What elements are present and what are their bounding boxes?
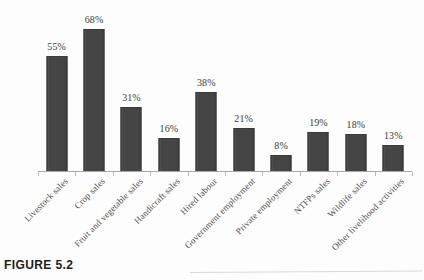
bar-slot: 19% (300, 0, 337, 172)
bar-slot: 38% (188, 0, 225, 172)
bar-value-label: 21% (234, 113, 253, 124)
x-axis-category-label: Other livelihood activities (330, 176, 406, 252)
bar[interactable] (383, 145, 404, 172)
figure-container: 55%68%31%16%38%21%8%19%18%13% Livestock … (0, 0, 424, 280)
bar-value-label: 13% (384, 130, 403, 141)
x-axis-category-label: NTFPs sales (291, 176, 331, 216)
bar[interactable] (308, 132, 329, 172)
bar-value-label: 8% (274, 140, 288, 151)
bar[interactable] (196, 92, 217, 172)
x-axis-category-label: Government employment (182, 176, 257, 251)
bar-value-label: 55% (47, 41, 66, 52)
bar-series: 55%68%31%16%38%21%8%19%18%13% (38, 0, 412, 172)
bar-slot: 13% (375, 0, 412, 172)
bar-value-label: 18% (347, 119, 366, 130)
figure-caption: FIGURE 5.2 (4, 258, 73, 272)
x-axis-category-labels: Livestock salesCrop salesFruit and veget… (38, 176, 412, 272)
bar-slot: 16% (150, 0, 187, 172)
bar-slot: 8% (262, 0, 299, 172)
bar[interactable] (345, 134, 366, 172)
bar[interactable] (271, 155, 292, 172)
bar-slot: 31% (113, 0, 150, 172)
bar[interactable] (158, 138, 179, 172)
x-axis-category-label: Hired labour (179, 176, 220, 217)
x-axis-tick (412, 172, 413, 176)
bar-slot: 55% (38, 0, 75, 172)
bar-value-label: 19% (309, 117, 328, 128)
bar[interactable] (46, 56, 67, 172)
bar[interactable] (233, 128, 254, 172)
x-axis-category-label: Fruit and vegetable sales (72, 176, 145, 249)
bar-value-label: 68% (85, 14, 104, 25)
bar-slot: 18% (337, 0, 374, 172)
bar[interactable] (84, 29, 105, 172)
page-rule-artifact (190, 271, 422, 273)
bar[interactable] (121, 107, 142, 172)
bar-value-label: 38% (197, 77, 216, 88)
bar-value-label: 31% (122, 92, 141, 103)
x-axis-category-label: Crop sales (72, 176, 107, 211)
bar-value-label: 16% (160, 123, 179, 134)
chart-plot-area: 55%68%31%16%38%21%8%19%18%13% (0, 0, 424, 180)
x-axis-category-label: Livestock sales (22, 176, 70, 224)
bar-slot: 68% (75, 0, 112, 172)
bar-slot: 21% (225, 0, 262, 172)
